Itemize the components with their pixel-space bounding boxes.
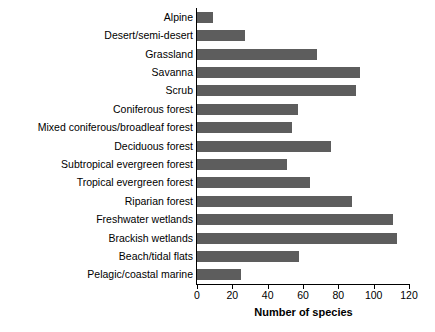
bar-row	[197, 233, 409, 244]
bar-row	[197, 122, 409, 133]
category-label: Mixed coniferous/broadleaf forest	[0, 122, 193, 133]
bar-row	[197, 196, 409, 207]
bar-row	[197, 159, 409, 170]
category-label: Freshwater wetlands	[0, 214, 193, 225]
bar	[197, 141, 331, 152]
category-label: Alpine	[0, 12, 193, 23]
bar	[197, 233, 397, 244]
x-axis-title: Number of species	[197, 306, 410, 318]
bar-row	[197, 104, 409, 115]
x-tick-label: 100	[354, 289, 394, 302]
bar	[197, 12, 213, 23]
bar	[197, 49, 317, 60]
bar-row	[197, 269, 409, 280]
category-label: Deciduous forest	[0, 141, 193, 152]
category-label: Grassland	[0, 49, 193, 60]
bar-row	[197, 67, 409, 78]
x-tick-label: 80	[318, 289, 358, 302]
bar	[197, 85, 356, 96]
category-label: Scrub	[0, 85, 193, 96]
category-label: Brackish wetlands	[0, 233, 193, 244]
bar-row	[197, 251, 409, 262]
bar-row	[197, 30, 409, 41]
bar	[197, 196, 352, 207]
bar-row	[197, 49, 409, 60]
bar	[197, 30, 245, 41]
bar	[197, 269, 241, 280]
bar	[197, 177, 310, 188]
category-label: Coniferous forest	[0, 104, 193, 115]
bar-row	[197, 85, 409, 96]
y-axis-category-labels: AlpineDesert/semi-desertGrasslandSavanna…	[0, 8, 193, 284]
x-tick-label: 40	[248, 289, 288, 302]
category-label: Pelagic/coastal marine	[0, 269, 193, 280]
x-tick-label: 120	[389, 289, 429, 302]
category-label: Desert/semi-desert	[0, 30, 193, 41]
x-tick-label: 0	[177, 289, 217, 302]
category-label: Subtropical evergreen forest	[0, 159, 193, 170]
bar-row	[197, 177, 409, 188]
bar-row	[197, 141, 409, 152]
bar	[197, 122, 292, 133]
bar-chart-figure: AlpineDesert/semi-desertGrasslandSavanna…	[0, 0, 435, 332]
bar-row	[197, 214, 409, 225]
bar	[197, 214, 393, 225]
x-tick-label: 20	[212, 289, 252, 302]
category-label: Riparian forest	[0, 196, 193, 207]
category-label: Beach/tidal flats	[0, 251, 193, 262]
bar	[197, 67, 360, 78]
bar	[197, 159, 287, 170]
category-label: Tropical evergreen forest	[0, 177, 193, 188]
bar-row	[197, 12, 409, 23]
plot-area	[197, 8, 409, 284]
bar	[197, 251, 299, 262]
bar	[197, 104, 298, 115]
category-label: Savanna	[0, 67, 193, 78]
x-tick-label: 60	[283, 289, 323, 302]
